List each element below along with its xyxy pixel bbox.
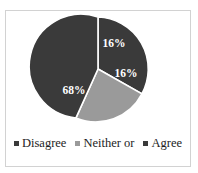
pie-chart-svg: 16% 16% 68%	[6, 11, 190, 131]
pie-label-neither-or: 16%	[115, 67, 138, 79]
legend-item-neither-or[interactable]: Neither or	[75, 137, 134, 150]
pie-label-disagree: 68%	[63, 84, 86, 96]
legend-item-disagree[interactable]: Disagree	[14, 137, 66, 150]
chart-legend: Disagree Neither or Agree	[6, 137, 190, 150]
legend-swatch-icon-disagree	[14, 141, 19, 146]
legend-label-agree: Agree	[151, 137, 182, 150]
legend-item-agree[interactable]: Agree	[143, 137, 182, 150]
legend-swatch-icon-neither-or	[75, 141, 80, 146]
legend-label-neither-or: Neither or	[83, 137, 134, 150]
legend-swatch-icon-agree	[143, 141, 148, 146]
pie-label-agree: 16%	[103, 37, 126, 49]
cropped-heading-text: THE ROOT OF THE	[3, 0, 69, 3]
legend-label-disagree: Disagree	[22, 137, 66, 150]
pie-chart: 16% 16% 68%	[6, 11, 190, 131]
chart-frame: 16% 16% 68% Disagree Neither or Agree	[5, 10, 191, 167]
